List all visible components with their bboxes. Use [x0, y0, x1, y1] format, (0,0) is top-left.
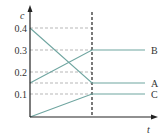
- y-axis-label: c: [20, 10, 25, 21]
- concentration-time-chart: c t 0.4 0.3 0.2 0.1 B A C: [0, 0, 168, 138]
- series-a-label: A: [151, 78, 159, 89]
- gridlines: [30, 28, 92, 94]
- series-lines: [30, 28, 145, 117]
- y-tick-labels: 0.4 0.3 0.2 0.1: [15, 23, 28, 100]
- series-a-line: [30, 28, 145, 83]
- series-b-line: [30, 50, 145, 83]
- series-c-label: C: [151, 89, 158, 100]
- y-axis-arrow-icon: [28, 5, 33, 12]
- tick-label-0.4: 0.4: [15, 23, 28, 34]
- tick-label-0.2: 0.2: [15, 67, 28, 78]
- series-b-label: B: [151, 45, 158, 56]
- series-labels: B A C: [151, 45, 159, 100]
- series-c-line: [30, 94, 145, 117]
- x-axis-arrow-icon: [151, 115, 158, 120]
- tick-label-0.3: 0.3: [15, 45, 28, 56]
- tick-label-0.1: 0.1: [15, 89, 28, 100]
- x-axis-label: t: [147, 124, 150, 135]
